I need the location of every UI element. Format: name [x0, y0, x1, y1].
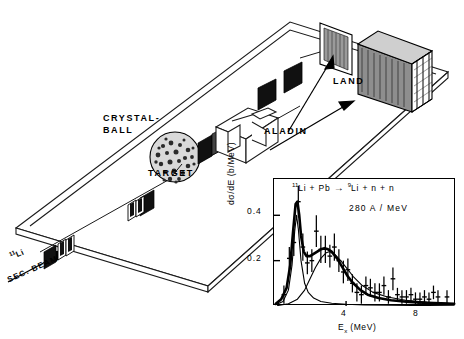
crystal-ball-label: CRYSTAL- BALL: [103, 112, 160, 136]
spectrum-plot: [274, 179, 456, 306]
y-tick-label-0.4: 0.4: [247, 206, 262, 216]
land-label: LAND: [333, 76, 364, 86]
aladin-label: ALADIN: [264, 126, 308, 136]
y-tick-label-0.2: 0.2: [247, 253, 262, 263]
cross-section-inset-plot: [273, 178, 455, 305]
x-tick-label-4: 4: [341, 308, 346, 318]
target-label: TARGET: [148, 168, 194, 178]
x-tick-label-8: 8: [413, 308, 418, 318]
y-axis-label: dσ/dE (b/MeV): [226, 142, 236, 205]
figure-canvas: CRYSTAL- BALL TARGET ALADIN LAND 11Li SE…: [0, 0, 464, 339]
reaction-annotation: 11Li + Pb → 9Li + n + n: [292, 182, 394, 193]
x-axis-label: Ex (MeV): [338, 322, 376, 334]
beam-energy-annotation: 280 A / MeV: [349, 203, 408, 213]
